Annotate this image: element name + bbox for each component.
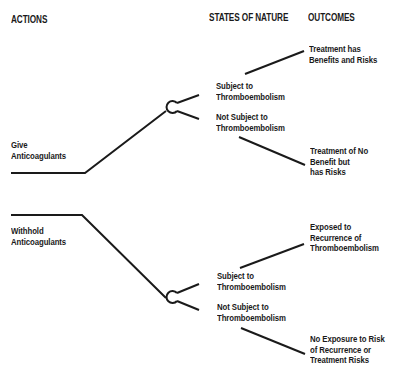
outcome-branch-give-subject xyxy=(245,51,304,74)
state-branch-give-subject xyxy=(177,95,199,103)
header-actions: ACTIONS xyxy=(11,15,47,26)
outcome-label-withhold-subject: Exposed to Recurrence of Thromboembolism xyxy=(310,222,379,254)
outcome-branch-withhold-not-subject xyxy=(241,328,305,354)
state-branch-withhold-not-subject xyxy=(177,301,199,310)
outcome-label-give-subject: Treatment has Benefits and Risks xyxy=(309,44,377,65)
header-states-of-nature: STATES OF NATURE xyxy=(209,13,288,24)
state-label-give-subject: Subject to Thromboembolism xyxy=(216,81,285,102)
state-branch-withhold-subject xyxy=(177,284,199,293)
outcome-branch-give-not-subject xyxy=(239,137,305,165)
state-branch-give-not-subject xyxy=(177,111,199,119)
state-label-withhold-subject: Subject to Thromboembolism xyxy=(217,271,286,292)
outcome-label-withhold-not-subject: No Exposure to Risk of Recurrence or Tre… xyxy=(310,334,385,366)
outcome-branch-withhold-subject xyxy=(240,244,304,268)
action-label-give: Give Anticoagulants xyxy=(11,140,66,161)
state-label-withhold-not-subject: Not Subject to Thromboembolism xyxy=(217,302,286,323)
header-outcomes: OUTCOMES xyxy=(308,13,355,24)
chance-node-withhold xyxy=(167,291,177,303)
chance-node-give xyxy=(167,101,177,113)
action-label-withhold: Withhold Anticoagulants xyxy=(11,226,66,247)
state-label-give-not-subject: Not Subject to Thromboembolism xyxy=(216,112,285,133)
outcome-label-give-not-subject: Treatment of No Benefit but has Risks xyxy=(310,146,368,178)
